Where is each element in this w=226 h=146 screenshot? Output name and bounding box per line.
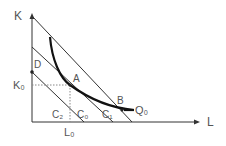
point-b <box>121 109 124 112</box>
point-d <box>30 70 34 74</box>
l-axis-label: L <box>207 115 214 129</box>
point-a-label: A <box>73 73 80 84</box>
point-d-label: D <box>34 59 41 70</box>
l0-label: L₀ <box>64 126 75 138</box>
q0-label: Q₀ <box>135 104 148 116</box>
k0-label: K₀ <box>13 79 25 91</box>
isocost-line-outer <box>32 16 132 122</box>
c2-label: C₂ <box>52 109 63 120</box>
k-axis-label: K <box>14 9 22 23</box>
l-axis-arrow-icon <box>194 120 200 125</box>
isoquant-diagram: K L D A B K₀ L₀ C₂ C₀ C₁ Q₀ <box>0 0 226 146</box>
c1-label: C₁ <box>102 109 113 120</box>
point-b-label: B <box>117 95 124 106</box>
c0-label: C₀ <box>77 109 88 120</box>
point-a <box>69 84 72 87</box>
